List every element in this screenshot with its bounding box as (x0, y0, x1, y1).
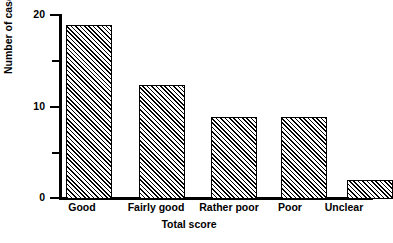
y-tick-label-20: 20 (5, 9, 45, 20)
bar-poor (281, 117, 327, 199)
bar-good (66, 25, 112, 199)
y-tick-label-10: 10 (5, 101, 45, 112)
bar-fairly-good (139, 85, 185, 199)
plot-area (59, 14, 373, 199)
x-axis-title: Total score (0, 218, 378, 230)
bar-rather-poor (211, 117, 257, 199)
bar-unclear (347, 180, 393, 199)
x-category-label-unclear: Unclear (313, 202, 375, 214)
y-tick-label-0: 0 (5, 192, 45, 203)
